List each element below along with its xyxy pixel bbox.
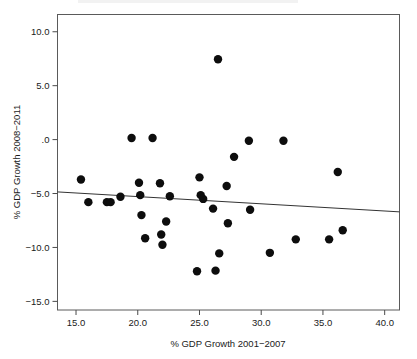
data-point: [195, 173, 203, 181]
data-point: [246, 206, 254, 214]
data-point: [222, 182, 230, 190]
data-points-layer: [77, 55, 347, 275]
data-point: [339, 226, 347, 234]
data-point: [158, 241, 166, 249]
data-point: [214, 55, 222, 63]
data-point: [266, 249, 274, 257]
data-point: [148, 134, 156, 142]
data-point: [141, 234, 149, 242]
x-tick-label: 15.0: [67, 317, 86, 328]
scatter-chart: % GDP Growth 2008−2011 % GDP Growth 2001…: [0, 0, 417, 359]
data-point: [156, 179, 164, 187]
data-point: [166, 192, 174, 200]
y-tick-label: .0: [42, 134, 50, 145]
x-tick-label: 20.0: [129, 317, 148, 328]
x-tick-label: 40.0: [375, 317, 394, 328]
x-tick-label: 30.0: [252, 317, 271, 328]
data-point: [230, 153, 238, 161]
data-point: [157, 230, 165, 238]
x-tick-label: 35.0: [314, 317, 333, 328]
data-point: [136, 191, 144, 199]
data-point: [84, 198, 92, 206]
y-axis: 10.05.0.0−5.0−10.0−15.0: [25, 26, 57, 307]
y-tick-label: −5.0: [31, 188, 50, 199]
data-point: [127, 134, 135, 142]
data-point: [334, 168, 342, 176]
data-point: [162, 217, 170, 225]
x-tick-label: 25.0: [190, 317, 209, 328]
data-point: [135, 179, 143, 187]
y-axis-title: % GDP Growth 2008−2011: [11, 105, 22, 220]
y-tick-label: 10.0: [31, 26, 50, 37]
data-point: [279, 136, 287, 144]
data-point: [245, 136, 253, 144]
cropped-title-artifact: [78, 0, 298, 3]
data-point: [199, 195, 207, 203]
x-axis: 15.020.025.030.035.040.0: [67, 310, 394, 328]
data-point: [209, 204, 217, 212]
data-point: [116, 193, 124, 201]
data-point: [211, 266, 219, 274]
data-point: [137, 211, 145, 219]
data-point: [77, 175, 85, 183]
y-tick-label: 5.0: [36, 80, 49, 91]
data-point: [292, 235, 300, 243]
data-point: [325, 235, 333, 243]
data-point: [224, 219, 232, 227]
x-axis-title: % GDP Growth 2001−2007: [170, 338, 285, 349]
y-tick-label: −10.0: [25, 242, 49, 253]
data-point: [193, 267, 201, 275]
data-point: [215, 249, 223, 257]
data-point: [106, 198, 114, 206]
y-tick-label: −15.0: [25, 296, 49, 307]
plot-frame: [58, 15, 400, 311]
